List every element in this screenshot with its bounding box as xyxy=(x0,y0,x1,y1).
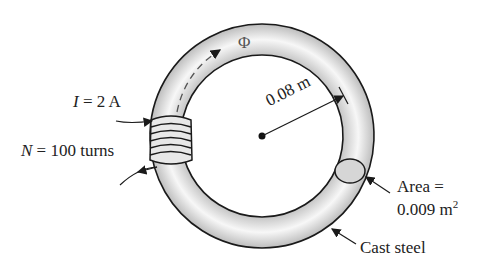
turns-eq: = xyxy=(37,141,47,160)
current-value: 2 A xyxy=(97,92,121,111)
area-value: 0.009 m xyxy=(397,200,453,219)
area-pointer xyxy=(366,177,390,193)
turns-label: N = 100 turns xyxy=(21,142,114,159)
turns-value: 100 turns xyxy=(50,141,114,160)
current-in-arrow xyxy=(116,121,152,123)
current-label: I = 2 A xyxy=(73,93,121,110)
area-label-line2: 0.009 m2 xyxy=(397,199,458,218)
current-symbol: I xyxy=(73,92,79,111)
material-pointer xyxy=(332,229,356,244)
current-eq: = xyxy=(83,92,93,111)
cross-section-area xyxy=(335,159,365,183)
area-exponent: 2 xyxy=(453,198,459,210)
flux-symbol: Φ xyxy=(238,34,250,51)
current-out-arrow xyxy=(120,167,157,185)
coil-winding xyxy=(150,116,192,164)
material-label: Cast steel xyxy=(360,239,426,256)
area-label-line1: Area = xyxy=(397,178,444,195)
turns-symbol: N xyxy=(21,141,32,160)
